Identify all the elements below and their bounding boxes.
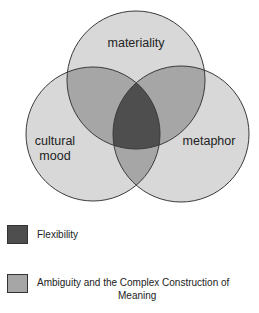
legend-label-ambiguity-line1: Ambiguity and the Complex Construction o… (37, 276, 229, 289)
legend-label-flexibility: Flexibility (37, 228, 78, 241)
label-mood-line2: mood (39, 149, 70, 163)
label-metaphor: metaphor (183, 134, 236, 148)
label-cultural-line1: cultural (35, 134, 75, 148)
legend-label-ambiguity-line2: Meaning (118, 289, 156, 302)
label-materiality: materiality (108, 36, 166, 50)
legend-swatch-medium (7, 274, 28, 293)
venn-diagram: materiality cultural mood metaphor (0, 0, 259, 210)
legend-swatch-dark (7, 225, 28, 244)
